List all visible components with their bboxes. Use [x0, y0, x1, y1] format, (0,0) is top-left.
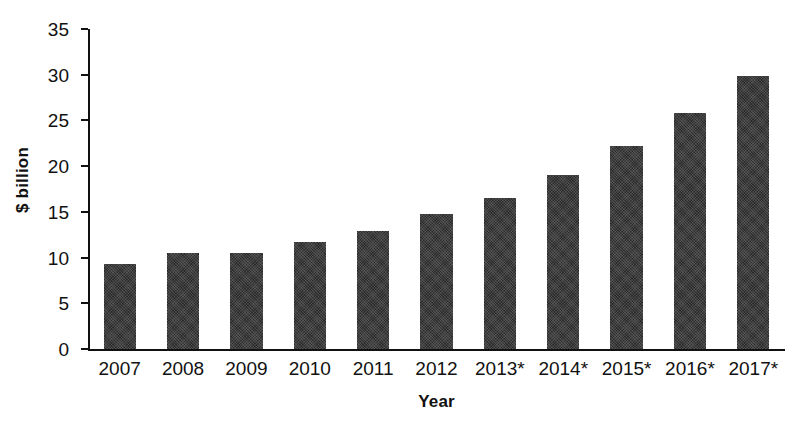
bar — [610, 146, 642, 349]
bar — [674, 113, 706, 349]
y-axis-tick: 0 — [81, 348, 88, 350]
x-axis-title: Year — [88, 392, 785, 412]
y-axis-title-label: $ billion — [13, 147, 33, 213]
y-axis-tick-label: 25 — [48, 111, 69, 130]
x-axis-tick-label: 2009 — [225, 359, 267, 378]
y-axis-tick-label: 35 — [48, 20, 69, 39]
bar — [737, 76, 769, 349]
y-axis-tick-label: 0 — [58, 340, 69, 359]
y-axis-tick: 25 — [81, 119, 88, 121]
bar — [357, 231, 389, 349]
bar — [167, 253, 199, 349]
y-axis-line — [88, 29, 90, 349]
y-axis-tick-label: 15 — [48, 202, 69, 221]
y-axis-title: $ billion — [0, 0, 46, 360]
bar — [484, 198, 516, 349]
bar-chart-figure: $ billion 05101520253035 200720082009201… — [0, 0, 806, 436]
x-axis-tick-label: 2014* — [538, 359, 588, 378]
bar — [104, 264, 136, 349]
y-axis-tick: 10 — [81, 257, 88, 259]
x-axis-tick-label: 2017* — [728, 359, 778, 378]
y-axis-tick-label: 30 — [48, 65, 69, 84]
bar — [547, 175, 579, 349]
x-axis-tick-label: 2008 — [162, 359, 204, 378]
x-axis-tick-label: 2013* — [475, 359, 525, 378]
x-axis-tick-label: 2010 — [289, 359, 331, 378]
y-axis-tick: 35 — [81, 28, 88, 30]
y-axis-tick-label: 5 — [58, 294, 69, 313]
y-axis-tick: 15 — [81, 211, 88, 213]
y-axis-tick: 20 — [81, 165, 88, 167]
x-axis-line — [88, 349, 785, 351]
x-axis-tick-label: 2011 — [353, 359, 394, 378]
x-axis-tick-label: 2012 — [415, 359, 457, 378]
y-axis-tick-label: 20 — [48, 157, 69, 176]
y-axis-tick-label: 10 — [48, 248, 69, 267]
x-axis-tick-label: 2007 — [99, 359, 141, 378]
y-axis-tick: 5 — [81, 302, 88, 304]
bar — [230, 253, 262, 349]
x-axis-tick-label: 2016* — [665, 359, 715, 378]
y-axis-tick: 30 — [81, 74, 88, 76]
x-axis-tick-label: 2015* — [602, 359, 652, 378]
plot-area: 05101520253035 2007200820092010201120122… — [88, 29, 785, 349]
bar — [420, 214, 452, 349]
bar — [294, 242, 326, 349]
